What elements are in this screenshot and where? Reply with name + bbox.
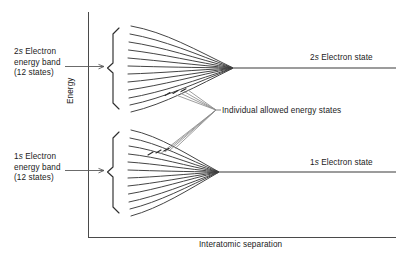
individual-states-label: Individual allowed energy states (222, 106, 341, 117)
fan-2s (128, 26, 232, 112)
band-1s-label: 1s Electron energy band (12 states) (14, 152, 61, 184)
y-axis-label: Energy (66, 77, 77, 104)
band-2s-label-line3: (12 states) (14, 68, 61, 79)
fan-1s (128, 130, 218, 216)
band-2s-label: 2s Electron energy band (12 states) (14, 47, 61, 79)
diagram-canvas (0, 0, 409, 263)
leader-2s-band (65, 64, 104, 69)
state-2s-label: 2s Electron state (310, 53, 373, 64)
axes-group (88, 12, 396, 238)
band-1s-label-line2: energy band (14, 163, 61, 174)
x-axis-label: Interatomic separation (199, 240, 282, 251)
brace-2s (108, 28, 120, 109)
energy-band-diagram: 2s Electron energy band (12 states) 1s E… (0, 0, 409, 263)
band-2s-label-line1: 2s Electron (14, 47, 61, 58)
leader-1s-band (65, 168, 104, 173)
state-1s-label: 1s Electron state (310, 158, 373, 169)
band-1s-label-line3: (12 states) (14, 173, 61, 184)
band-1s-label-line1: 1s Electron (14, 152, 61, 163)
band-2s-label-line2: energy band (14, 58, 61, 69)
brace-1s (108, 132, 120, 213)
